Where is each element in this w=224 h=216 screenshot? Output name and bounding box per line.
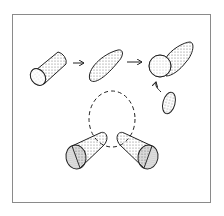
left-cone-shape (64, 132, 107, 170)
elongated-oval-shape (89, 50, 122, 82)
arrow-up-icon (156, 82, 161, 92)
ball-with-oval-shape (149, 42, 193, 77)
right-cone-shape (117, 132, 160, 170)
cylinder-shape (27, 52, 66, 88)
small-oval-shape (160, 91, 177, 115)
clay-steps-illustration (0, 0, 224, 216)
